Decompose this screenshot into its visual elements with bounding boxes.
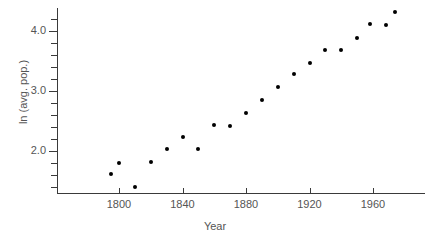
x-axis-line	[57, 193, 425, 194]
y-axis-minor-tick	[51, 115, 57, 116]
x-axis-tick	[246, 188, 247, 194]
data-point	[196, 147, 200, 151]
x-axis-tick-label: 1920	[290, 198, 330, 210]
y-axis-minor-tick	[51, 67, 57, 68]
data-point	[133, 185, 137, 189]
data-point	[260, 98, 264, 102]
y-axis-minor-tick	[51, 55, 57, 56]
y-axis-major-tick	[49, 31, 57, 32]
plot-area: 2.03.04.0 18001840188019201960 ln (avg. …	[0, 0, 430, 242]
data-point	[308, 61, 312, 65]
x-axis-tick-label: 1840	[163, 198, 203, 210]
y-axis-minor-tick	[51, 103, 57, 104]
y-axis-minor-tick	[51, 187, 57, 188]
data-point	[181, 135, 185, 139]
x-axis-tick	[373, 188, 374, 194]
data-point	[368, 22, 372, 26]
y-axis-major-tick	[49, 91, 57, 92]
x-axis-tick-label: 1800	[99, 198, 139, 210]
x-axis-tick-label: 1960	[353, 198, 393, 210]
y-axis-major-tick	[49, 151, 57, 152]
y-axis-minor-tick	[51, 127, 57, 128]
data-point	[339, 48, 343, 52]
x-axis-tick	[183, 188, 184, 194]
scatter-chart-figure: 2.03.04.0 18001840188019201960 ln (avg. …	[0, 0, 430, 242]
y-axis-minor-tick	[51, 19, 57, 20]
data-point	[165, 147, 169, 151]
y-axis-minor-tick	[51, 163, 57, 164]
x-axis-tick-label: 1880	[226, 198, 266, 210]
data-point	[292, 72, 296, 76]
y-axis-minor-tick	[51, 175, 57, 176]
data-point	[228, 124, 232, 128]
y-axis-minor-tick	[51, 139, 57, 140]
data-point	[109, 172, 113, 176]
data-point	[244, 111, 248, 115]
data-point	[355, 36, 359, 40]
data-point	[323, 48, 327, 52]
data-point	[393, 10, 397, 14]
data-point	[149, 160, 153, 164]
x-axis-tick	[310, 188, 311, 194]
data-point	[117, 161, 121, 165]
y-axis-line	[57, 8, 58, 194]
y-axis-minor-tick	[51, 43, 57, 44]
y-axis-minor-tick	[51, 79, 57, 80]
data-point	[212, 123, 216, 127]
data-point	[276, 85, 280, 89]
y-axis-label: ln (avg. pop.)	[17, 22, 29, 162]
x-axis-tick	[119, 188, 120, 194]
data-point	[384, 23, 388, 27]
x-axis-label: Year	[0, 220, 430, 232]
